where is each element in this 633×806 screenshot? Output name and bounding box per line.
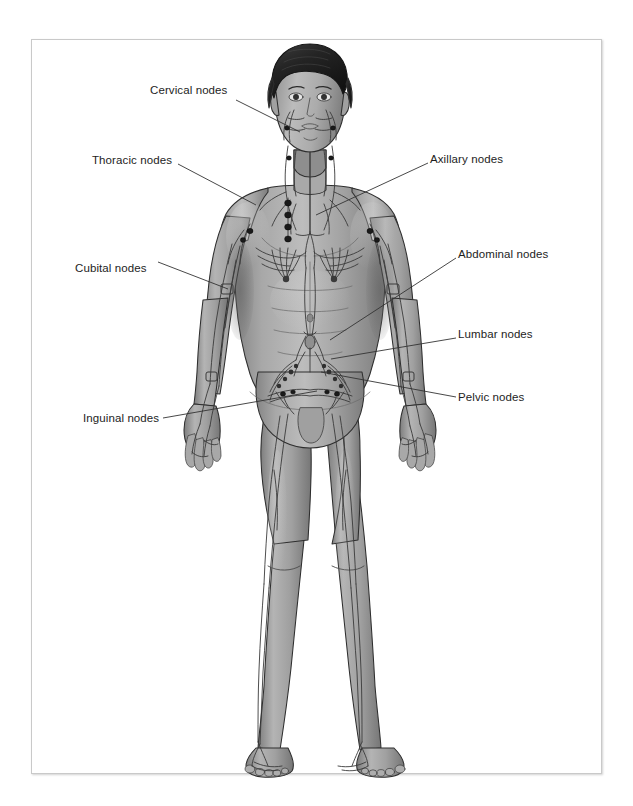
lymphatic-figure-illustration <box>0 0 633 806</box>
label-thoracic-nodes: Thoracic nodes <box>92 154 172 167</box>
diagram-page: Cervical nodes Thoracic nodes Axillary n… <box>0 0 633 806</box>
label-axillary-nodes: Axillary nodes <box>430 153 503 166</box>
label-lumbar-nodes: Lumbar nodes <box>458 328 533 341</box>
label-pelvic-nodes: Pelvic nodes <box>458 391 524 404</box>
label-abdominal-nodes: Abdominal nodes <box>458 248 548 261</box>
label-cervical-nodes: Cervical nodes <box>150 84 227 97</box>
label-inguinal-nodes: Inguinal nodes <box>83 412 159 425</box>
label-cubital-nodes: Cubital nodes <box>75 262 147 275</box>
leader-line-thoracic <box>178 164 256 205</box>
